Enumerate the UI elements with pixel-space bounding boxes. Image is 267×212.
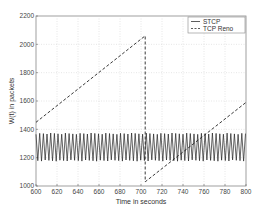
x-tick-label: 620 — [52, 188, 63, 195]
legend: STCP TCP Reno — [188, 17, 245, 33]
x-tick-label: 700 — [136, 188, 147, 195]
x-tick-label: 740 — [178, 188, 189, 195]
y-tick-label: 1200 — [20, 154, 35, 161]
x-tick-label: 800 — [241, 188, 252, 195]
x-tick-label: 600 — [31, 188, 42, 195]
x-tick-label: 780 — [220, 188, 231, 195]
x-tick-label: 640 — [73, 188, 84, 195]
x-axis-label: Time in seconds — [116, 198, 167, 205]
y-axis-ticks: 1000120014001600180020002200 — [20, 12, 38, 189]
x-tick-label: 660 — [94, 188, 105, 195]
legend-reno-label: TCP Reno — [203, 25, 234, 32]
x-tick-label: 760 — [199, 188, 210, 195]
y-axis-label: W(t) in packets — [8, 77, 16, 124]
y-tick-label: 2200 — [20, 12, 35, 19]
x-tick-label: 680 — [115, 188, 126, 195]
legend-stcp-label: STCP — [203, 18, 220, 25]
chart: 1000120014001600180020002200 60062064066… — [0, 0, 267, 212]
y-tick-label: 1400 — [20, 126, 35, 133]
y-tick-label: 1800 — [20, 69, 35, 76]
y-tick-label: 2000 — [20, 41, 35, 48]
y-tick-label: 1600 — [20, 97, 35, 104]
x-tick-label: 720 — [157, 188, 168, 195]
